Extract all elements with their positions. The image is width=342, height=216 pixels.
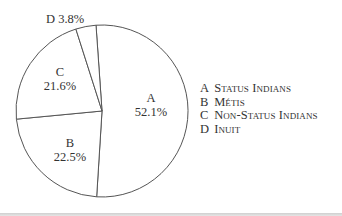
slice-label-d: D 3.8% xyxy=(46,12,84,26)
legend-item-c: C Non-Status Indians xyxy=(200,109,318,123)
slice-percent-b: 22.5% xyxy=(54,150,86,164)
legend-key-d: D xyxy=(200,123,211,137)
slice-percent-a: 52.1% xyxy=(135,105,167,119)
slice-label-a: A 52.1% xyxy=(135,91,167,119)
slice-label-c: C 21.6% xyxy=(44,65,76,93)
legend-item-d: D Inuit xyxy=(200,123,318,137)
legend-label-a: Status Indians xyxy=(214,81,291,95)
slice-key-b: B xyxy=(54,136,86,150)
bottom-divider xyxy=(0,213,342,216)
legend-label-b: Métis xyxy=(214,95,245,109)
pie-chart: A 52.1% B 22.5% C 21.6% D 3.8% A Status … xyxy=(0,0,342,216)
legend-key-c: C xyxy=(200,109,211,123)
legend-item-b: B Métis xyxy=(200,96,318,110)
legend: A Status Indians B Métis C Non-Status In… xyxy=(200,82,318,136)
slice-key-c: C xyxy=(44,65,76,79)
legend-label-c: Non-Status Indians xyxy=(214,108,318,122)
legend-label-d: Inuit xyxy=(214,122,240,136)
slice-label-b: B 22.5% xyxy=(54,136,86,164)
slice-key-a: A xyxy=(135,91,167,105)
legend-key-b: B xyxy=(200,96,211,110)
legend-item-a: A Status Indians xyxy=(200,82,318,96)
slice-percent-d: D 3.8% xyxy=(46,12,84,26)
legend-key-a: A xyxy=(200,82,211,96)
slice-percent-c: 21.6% xyxy=(44,79,76,93)
